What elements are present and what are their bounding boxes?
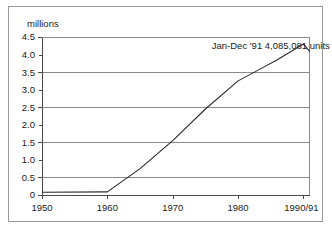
y-tick-label: 4.0 — [22, 49, 35, 60]
y-axis-label: millions — [27, 18, 59, 29]
annotations-group: Jan-Dec '91 4,085,081 units — [212, 40, 330, 51]
x-tick-label: 1980 — [228, 202, 249, 213]
y-tick-label: 1.0 — [22, 154, 35, 165]
y-tick-label: 1.5 — [22, 137, 35, 148]
x-tick-label: 1970 — [162, 202, 183, 213]
y-axis-ticks-group — [38, 38, 42, 196]
chart-figure: 4.54.03.53.02.52.01.51.00.50 19501960197… — [0, 0, 332, 229]
x-tick-labels-group: 19501960197019801990/91 — [31, 202, 318, 213]
y-tick-label: 2.5 — [22, 102, 35, 113]
x-tick-label: 1960 — [97, 202, 118, 213]
gridlines-group — [42, 73, 310, 178]
data-series-line — [42, 44, 310, 192]
x-tick-label: 1990/91 — [284, 202, 318, 213]
y-tick-label: 3.0 — [22, 84, 35, 95]
y-tick-label: 2.0 — [22, 119, 35, 130]
line-chart: 4.54.03.53.02.52.01.51.00.50 19501960197… — [0, 0, 332, 229]
y-tick-label: 0 — [30, 189, 35, 200]
y-tick-label: 3.5 — [22, 67, 35, 78]
y-tick-labels-group: 4.54.03.53.02.52.01.51.00.50 — [22, 31, 35, 200]
y-tick-label: 0.5 — [22, 172, 35, 183]
x-tick-label: 1950 — [31, 202, 52, 213]
chart-annotation: Jan-Dec '91 4,085,081 units — [212, 40, 330, 51]
y-tick-label: 4.5 — [22, 31, 35, 42]
